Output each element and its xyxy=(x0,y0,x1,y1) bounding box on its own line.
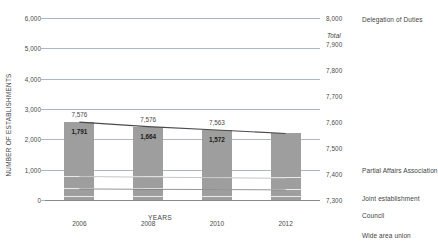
y-axis-left-tick-label: 1,000 xyxy=(25,166,41,173)
y-axis-left-tick-label: 4,000 xyxy=(25,75,41,82)
y-axis-right-tick-label: 8,000 xyxy=(326,15,342,22)
y-axis-left-tick-label: 5,000 xyxy=(25,45,41,52)
y-axis-left-tick-mark xyxy=(40,170,45,171)
y-axis-right-tick-label: 7,600 xyxy=(326,119,342,126)
x-axis-tick-label: 2006 xyxy=(72,220,86,227)
y-axis-left-tick-mark xyxy=(40,48,45,49)
bar[interactable] xyxy=(271,133,301,200)
y-axis-right-tick-label: 7,700 xyxy=(326,93,342,100)
bar-segment-divider xyxy=(133,196,163,197)
legend-item-council[interactable]: Council xyxy=(362,212,384,219)
bar-total-label: 7,576 xyxy=(71,111,87,118)
bar-value-label: 1,664 xyxy=(140,132,156,139)
y-axis-left-tick-mark xyxy=(40,109,45,110)
legend-item-wide-area-union[interactable]: Wide area union xyxy=(362,232,411,239)
gridline xyxy=(45,109,320,110)
x-axis-tick-label: 2008 xyxy=(141,220,155,227)
gridline xyxy=(45,48,320,49)
y-axis-left-tick-mark xyxy=(40,139,45,140)
legend-item-joint-establishment[interactable]: Joint establishment xyxy=(362,195,420,202)
plot-area: 01,0002,0003,0004,0005,0006,000 7,3007,4… xyxy=(45,18,320,200)
line-partial-affairs-association xyxy=(79,122,285,133)
bar-segment-divider xyxy=(64,188,94,189)
line-joint-establishment xyxy=(79,176,285,178)
y-axis-right-tick-label: 7,500 xyxy=(326,145,342,152)
bar-segment-divider xyxy=(133,176,163,177)
y-axis-right-tick-label: 7,400 xyxy=(326,171,342,178)
line-council xyxy=(79,189,285,190)
bar-segment-divider xyxy=(271,196,301,197)
gridline xyxy=(45,200,320,201)
y-axis-left-tick-mark xyxy=(40,200,45,201)
x-axis-title: YEARS xyxy=(0,214,320,221)
x-axis-tick-label: 2010 xyxy=(210,220,224,227)
y-axis-left-tick-mark xyxy=(40,79,45,80)
total-annotation: Total xyxy=(327,32,341,39)
bar-segment-divider xyxy=(64,176,94,177)
bar-value-label: 1,791 xyxy=(71,128,87,135)
legend-item-delegation-of-duties[interactable]: Delegation of Duties xyxy=(362,16,423,23)
y-axis-right-tick-label: 7,800 xyxy=(326,67,342,74)
y-axis-right-tick-label: 7,300 xyxy=(326,197,342,204)
y-axis-title: NUMBER OF ESTABLISHMENTS xyxy=(5,73,12,176)
y-axis-left-tick-label: 6,000 xyxy=(25,15,41,22)
y-axis-left-tick-label: 2,000 xyxy=(25,136,41,143)
bar-total-label: 7,576 xyxy=(140,116,156,123)
x-axis-tick-label: 2012 xyxy=(278,220,292,227)
gridline xyxy=(45,79,320,80)
bar-segment-divider xyxy=(202,177,232,178)
gridline xyxy=(45,18,320,19)
bar-segment-divider xyxy=(64,196,94,197)
y-axis-right-tick-label: 7,900 xyxy=(326,41,342,48)
bar-value-label: 1,572 xyxy=(209,136,225,143)
bar-segment-divider xyxy=(271,189,301,190)
bar-segment-divider xyxy=(202,196,232,197)
bar-segment-divider xyxy=(133,188,163,189)
y-axis-left-tick-label: 3,000 xyxy=(25,106,41,113)
y-axis-left-tick-mark xyxy=(40,18,45,19)
legend-item-partial-affairs-association[interactable]: Partial Affairs Association xyxy=(362,167,438,174)
bar-segment-divider xyxy=(202,189,232,190)
bar-segment-divider xyxy=(271,177,301,178)
bar-total-label: 7,563 xyxy=(209,119,225,126)
